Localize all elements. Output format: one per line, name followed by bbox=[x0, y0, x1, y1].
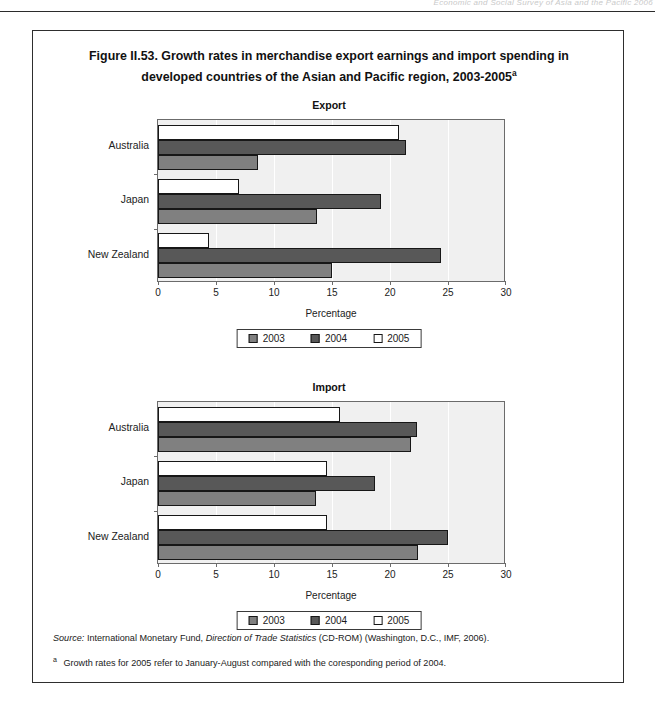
export-xtick-label-20: 20 bbox=[384, 287, 395, 298]
import-xtick-10 bbox=[274, 563, 275, 567]
import-legend-swatch-2005 bbox=[373, 616, 382, 625]
export-bar-japan-2004 bbox=[158, 194, 381, 209]
export-xtick-5 bbox=[216, 281, 217, 285]
export-chart-title: Export bbox=[33, 99, 625, 111]
import-xtick-label-10: 10 bbox=[268, 569, 279, 580]
import-bar-australia-2003 bbox=[158, 437, 411, 452]
import-bar-australia-2004 bbox=[158, 422, 417, 437]
export-xtick-label-30: 30 bbox=[500, 287, 511, 298]
export-group-australia: Australia bbox=[158, 120, 504, 174]
footnote-text: Growth rates for 2005 refer to January-A… bbox=[63, 658, 446, 668]
source-publication-title: Direction of Trade Statistics bbox=[206, 633, 317, 643]
export-ylabel-australia: Australia bbox=[29, 140, 149, 151]
import-group-australia: Australia bbox=[158, 402, 504, 456]
export-legend-swatch-2004 bbox=[311, 334, 320, 343]
import-xtick-label-5: 5 bbox=[213, 569, 219, 580]
import-xtick-label-15: 15 bbox=[326, 569, 337, 580]
export-xtick-25 bbox=[448, 281, 449, 285]
import-xtick-label-30: 30 bbox=[500, 569, 511, 580]
import-axis-caption: Percentage bbox=[157, 590, 505, 601]
import-bar-new-zealand-2004 bbox=[158, 530, 448, 545]
page-running-header: Economic and Social Survey of Asia and t… bbox=[0, 0, 655, 14]
import-bar-new-zealand-2003 bbox=[158, 545, 418, 560]
export-legend-item-2004: 2004 bbox=[311, 333, 347, 344]
export-legend-swatch-2003 bbox=[249, 334, 258, 343]
export-bar-japan-2005 bbox=[158, 179, 239, 194]
export-bar-australia-2005 bbox=[158, 125, 399, 140]
figure-notes: Source: International Monetary Fund, Dir… bbox=[53, 631, 609, 677]
import-legend-item-2005: 2005 bbox=[373, 615, 409, 626]
figure-title-line-1: Figure II.53. Growth rates in merchandis… bbox=[69, 48, 589, 65]
import-ytick-1 bbox=[154, 456, 158, 457]
export-xtick-30 bbox=[505, 281, 506, 285]
import-xtick-20 bbox=[390, 563, 391, 567]
export-bar-new-zealand-2003 bbox=[158, 263, 332, 278]
import-legend-label-2003: 2003 bbox=[263, 615, 285, 626]
source-note: Source: International Monetary Fund, Dir… bbox=[53, 631, 609, 646]
export-xtick-label-10: 10 bbox=[268, 287, 279, 298]
export-legend-label-2004: 2004 bbox=[325, 333, 347, 344]
export-legend-item-2005: 2005 bbox=[373, 333, 409, 344]
export-bar-japan-2003 bbox=[158, 209, 317, 224]
import-xtick-label-20: 20 bbox=[384, 569, 395, 580]
import-legend-swatch-2003 bbox=[249, 616, 258, 625]
figure-title-line-2-text: developed countries of the Asian and Pac… bbox=[141, 70, 512, 84]
import-legend-swatch-2004 bbox=[311, 616, 320, 625]
export-bar-australia-2003 bbox=[158, 155, 258, 170]
import-xtick-label-0: 0 bbox=[155, 569, 161, 580]
export-legend-label-2005: 2005 bbox=[387, 333, 409, 344]
header-rule bbox=[0, 11, 655, 12]
import-ylabel-japan: Japan bbox=[29, 476, 149, 487]
import-legend: 200320042005 bbox=[237, 611, 422, 630]
export-ytick-1 bbox=[154, 174, 158, 175]
import-legend-label-2005: 2005 bbox=[387, 615, 409, 626]
footnote-a: a Growth rates for 2005 refer to January… bbox=[53, 652, 609, 671]
import-xtick-25 bbox=[448, 563, 449, 567]
export-ytick-2 bbox=[154, 229, 158, 230]
export-bar-australia-2004 bbox=[158, 140, 406, 155]
import-legend-item-2003: 2003 bbox=[249, 615, 285, 626]
footnote-marker: a bbox=[53, 656, 57, 663]
export-xtick-label-5: 5 bbox=[213, 287, 219, 298]
export-axis-caption: Percentage bbox=[157, 308, 505, 319]
import-bar-japan-2003 bbox=[158, 491, 316, 506]
export-xtick-20 bbox=[390, 281, 391, 285]
export-legend-swatch-2005 bbox=[373, 334, 382, 343]
import-bar-australia-2005 bbox=[158, 407, 340, 422]
import-xtick-5 bbox=[216, 563, 217, 567]
figure-title-line-2: developed countries of the Asian and Pac… bbox=[69, 65, 589, 86]
export-xtick-label-25: 25 bbox=[442, 287, 453, 298]
import-chart-title: Import bbox=[33, 381, 625, 393]
export-legend: 200320042005 bbox=[237, 329, 422, 348]
import-bar-new-zealand-2005 bbox=[158, 515, 327, 530]
export-plot-inner: AustraliaJapanNew Zealand051015202530 bbox=[158, 120, 504, 281]
export-xtick-label-0: 0 bbox=[155, 287, 161, 298]
import-xtick-30 bbox=[505, 563, 506, 567]
export-ylabel-japan: Japan bbox=[29, 194, 149, 205]
figure-title-footnote-marker: a bbox=[512, 68, 517, 78]
import-ylabel-new-zealand: New Zealand bbox=[29, 531, 149, 542]
import-legend-item-2004: 2004 bbox=[311, 615, 347, 626]
export-group-japan: Japan bbox=[158, 174, 504, 228]
export-xtick-label-15: 15 bbox=[326, 287, 337, 298]
import-xtick-label-25: 25 bbox=[442, 569, 453, 580]
export-bar-new-zealand-2004 bbox=[158, 248, 441, 263]
export-xtick-15 bbox=[332, 281, 333, 285]
import-ylabel-australia: Australia bbox=[29, 422, 149, 433]
source-label: Source: bbox=[53, 633, 84, 643]
export-legend-item-2003: 2003 bbox=[249, 333, 285, 344]
import-ytick-2 bbox=[154, 511, 158, 512]
import-plot-area: AustraliaJapanNew Zealand051015202530 bbox=[157, 401, 505, 564]
export-bar-new-zealand-2005 bbox=[158, 233, 209, 248]
import-group-new-zealand: New Zealand bbox=[158, 511, 504, 565]
import-bar-japan-2005 bbox=[158, 461, 327, 476]
figure-title: Figure II.53. Growth rates in merchandis… bbox=[69, 48, 589, 86]
running-header-text: Economic and Social Survey of Asia and t… bbox=[434, 0, 653, 7]
export-xtick-0 bbox=[158, 281, 159, 285]
import-bar-japan-2004 bbox=[158, 476, 375, 491]
export-group-new-zealand: New Zealand bbox=[158, 229, 504, 283]
figure-container: Figure II.53. Growth rates in merchandis… bbox=[32, 30, 624, 683]
import-group-japan: Japan bbox=[158, 456, 504, 510]
export-ylabel-new-zealand: New Zealand bbox=[29, 249, 149, 260]
export-xtick-10 bbox=[274, 281, 275, 285]
